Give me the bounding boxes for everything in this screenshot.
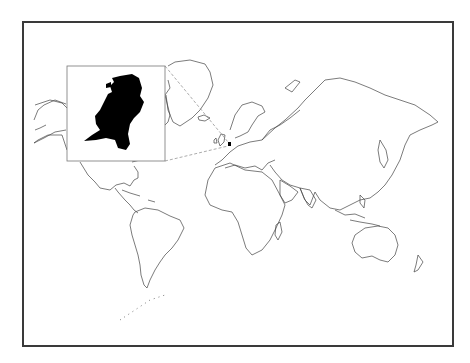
indonesia xyxy=(335,210,380,226)
netherlands-inset xyxy=(67,66,165,161)
africa xyxy=(205,163,285,255)
europe-mainland xyxy=(215,110,300,170)
australia xyxy=(352,226,398,262)
asia xyxy=(262,78,438,210)
british-isles xyxy=(214,134,225,146)
alaska xyxy=(34,100,66,143)
madagascar xyxy=(275,222,282,240)
india xyxy=(300,188,316,208)
caribbean xyxy=(122,190,155,202)
netherlands-marker xyxy=(228,142,231,146)
new-zealand xyxy=(414,255,423,272)
scandinavia xyxy=(230,102,265,138)
world-map xyxy=(0,0,470,363)
arabia xyxy=(280,180,298,203)
south-america xyxy=(130,208,184,288)
japan xyxy=(378,140,388,168)
novaya-zemlya xyxy=(285,80,300,92)
philippines xyxy=(360,195,365,208)
antarctic-islands xyxy=(120,295,165,320)
